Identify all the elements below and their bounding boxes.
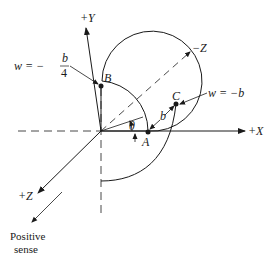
label-y-pos: +Y (80, 11, 96, 25)
y-axis-positive (86, 28, 101, 131)
point-a (146, 130, 151, 135)
label-z-neg: −Z (192, 41, 207, 55)
label-theta: θ (129, 119, 135, 133)
label-x-pos: +X (248, 124, 264, 138)
label-point-a: A (141, 135, 150, 149)
label-w-c: w = −b (208, 86, 244, 100)
leader-c (180, 93, 207, 104)
label-sense: sense (14, 243, 38, 255)
label-w-b-numerator: b (62, 51, 68, 65)
z-axis-positive (38, 131, 101, 193)
b-dimension-arrow-1 (150, 120, 160, 129)
leader-b (70, 66, 98, 84)
positive-sense-arrow (32, 192, 62, 222)
label-z-pos: +Z (18, 189, 33, 203)
label-b-distance: b (160, 109, 166, 123)
point-b (99, 84, 104, 89)
b-dimension-arrow-2 (165, 106, 174, 115)
label-point-b: B (104, 71, 112, 85)
radius-line-theta (101, 117, 143, 131)
helix-diagram: +Y +X −Z +Z B A C θ b w = −b w = − b 4 P… (0, 0, 275, 260)
label-w-b-denominator: 4 (61, 66, 67, 80)
label-w-b-prefix: w = − (14, 59, 44, 73)
circle-path (102, 31, 202, 131)
label-positive: Positive (10, 230, 46, 242)
diagram-canvas: +Y +X −Z +Z B A C θ b w = −b w = − b 4 P… (0, 0, 275, 260)
label-point-c: C (172, 89, 181, 103)
